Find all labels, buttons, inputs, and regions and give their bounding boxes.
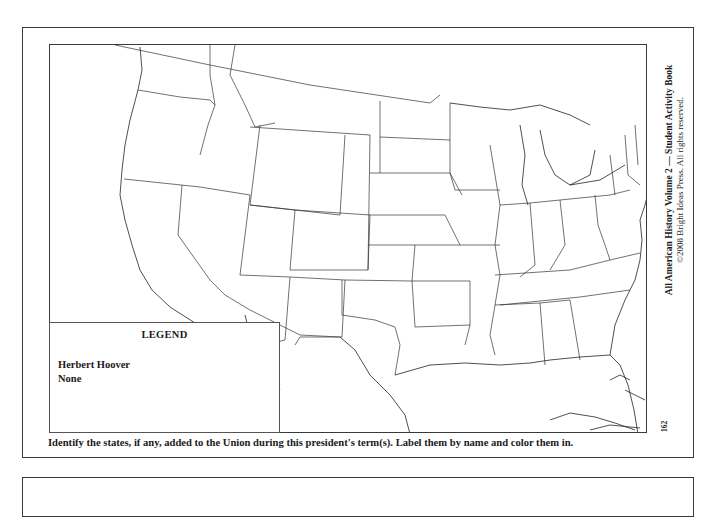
page-number: 162 — [660, 421, 669, 432]
credit-title: All American History Volume 2 — Student … — [664, 50, 675, 310]
legend-box: LEGEND Herbert Hoover None — [49, 322, 280, 433]
legend-title: LEGEND — [50, 329, 279, 340]
legend-president: Herbert Hoover — [58, 359, 130, 370]
next-worksheet-frame — [22, 477, 694, 517]
legend-states-added: None — [58, 373, 81, 384]
worksheet-instructions: Identify the states, if any, added to th… — [48, 437, 573, 448]
credit-copyright: ©2008 Bright Ideas Press. All rights res… — [675, 50, 686, 310]
